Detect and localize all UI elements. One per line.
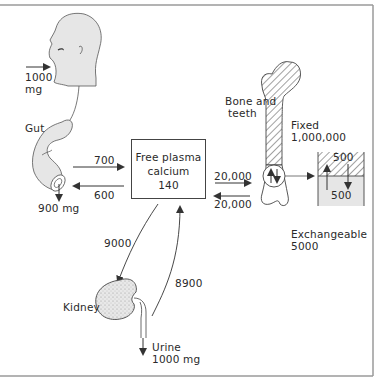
exchange-bottom-value: 500 [331, 190, 352, 201]
fixed-label: Fixed [291, 120, 319, 131]
plasma-to-kidney-label: 9000 [104, 238, 132, 249]
exchangeable-value: 5000 [291, 241, 319, 252]
head-illustration [49, 13, 101, 120]
gut-to-plasma-label: 700 [94, 155, 115, 166]
bone-label-line1: Bone and [225, 96, 276, 107]
bone-label-line2: teeth [228, 108, 257, 119]
bone-to-plasma-label: 20,000 [214, 199, 252, 210]
intake-amount: 1000 [25, 72, 53, 83]
kidney-to-plasma-label: 8900 [175, 278, 203, 289]
urine-label: Urine [152, 342, 181, 353]
free-plasma-calcium-box: Free plasma calcium 140 [131, 139, 206, 199]
plasma-to-bone-label: 20,000 [214, 171, 252, 182]
plasma-line1: Free plasma [132, 152, 205, 163]
fixed-value: 1,000,000 [291, 132, 346, 143]
plasma-line2: calcium [132, 166, 205, 177]
kidney-label: Kidney [63, 302, 100, 313]
kidney-illustration [96, 279, 146, 338]
plasma-to-gut-label: 600 [94, 190, 115, 201]
plasma-value: 140 [132, 180, 205, 191]
fecal-output-label: 900 mg [38, 203, 79, 214]
urine-amount: 1000 mg [152, 354, 200, 365]
exchange-top-value: 500 [333, 152, 354, 163]
intake-unit: mg [25, 84, 42, 95]
diagram-canvas: 1000 mg Gut 900 mg 700 600 Free plasma c… [0, 0, 387, 387]
gut-label: Gut [25, 123, 45, 134]
exchangeable-label: Exchangeable [291, 229, 367, 240]
kidney-to-plasma-arrow [152, 207, 180, 316]
